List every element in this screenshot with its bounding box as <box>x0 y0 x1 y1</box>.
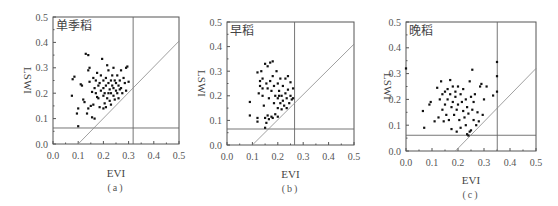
data-point <box>456 109 458 111</box>
y-tick-label: 0.5 <box>389 17 402 28</box>
y-tick-label: 0.1 <box>389 120 402 131</box>
data-point <box>436 87 438 89</box>
data-point <box>422 110 424 112</box>
x-tick-label: 0.0 <box>400 157 413 168</box>
data-point <box>475 124 477 126</box>
data-point <box>454 96 456 98</box>
data-point <box>450 106 452 108</box>
data-point <box>439 98 441 100</box>
data-point <box>466 106 468 108</box>
data-point <box>470 96 472 98</box>
panel-title: 晚稻 <box>409 24 433 38</box>
data-point <box>447 98 449 100</box>
plot-area: 0.00.10.20.30.40.50.00.10.20.30.40.5EVI(… <box>382 17 542 202</box>
scatter-plot-c: 0.00.10.20.30.40.50.00.10.20.30.40.5EVI(… <box>0 0 558 206</box>
y-tick-label: 0.0 <box>389 146 402 157</box>
data-point <box>496 61 498 63</box>
data-point <box>479 85 481 87</box>
data-point <box>483 98 485 100</box>
data-point <box>460 93 462 95</box>
data-point <box>462 88 464 90</box>
data-point <box>466 133 468 135</box>
diagonal-line <box>455 68 536 151</box>
data-point <box>474 93 476 95</box>
data-point <box>434 120 436 122</box>
data-point <box>496 75 498 77</box>
data-point <box>456 131 458 133</box>
y-tick-label: 0.4 <box>389 42 402 53</box>
data-point <box>460 127 462 129</box>
data-point <box>476 111 478 113</box>
data-point <box>449 79 451 81</box>
data-point <box>457 85 459 87</box>
data-point <box>405 67 407 69</box>
data-point <box>441 93 443 95</box>
data-point <box>465 98 467 100</box>
data-point <box>473 101 475 103</box>
x-tick-label: 0.5 <box>530 157 543 168</box>
data-point <box>430 101 432 103</box>
data-point <box>441 109 443 111</box>
data-point <box>428 103 430 105</box>
plot-frame <box>406 22 536 151</box>
data-point <box>449 93 451 95</box>
data-point <box>452 85 454 87</box>
x-tick-label: 0.4 <box>504 157 517 168</box>
data-point <box>454 91 456 93</box>
data-point <box>437 116 439 118</box>
data-point <box>444 103 446 105</box>
x-tick-label: 0.3 <box>478 157 491 168</box>
data-point <box>445 114 447 116</box>
data-point <box>492 94 494 96</box>
y-axis-label: LSWI <box>382 73 394 100</box>
data-point <box>482 114 484 116</box>
data-point <box>469 80 471 82</box>
data-point <box>452 101 454 103</box>
data-point <box>467 112 469 114</box>
data-point <box>471 69 473 71</box>
data-point <box>463 116 465 118</box>
data-point <box>486 85 488 87</box>
data-point <box>423 127 425 129</box>
data-point <box>458 119 460 121</box>
data-points <box>405 61 498 137</box>
data-point <box>453 114 455 116</box>
x-tick-label: 0.2 <box>452 157 465 168</box>
data-point <box>457 103 459 105</box>
data-point <box>465 124 467 126</box>
data-point <box>496 91 498 93</box>
data-point <box>462 110 464 112</box>
x-axis-label: EVI <box>462 174 481 186</box>
data-point <box>471 109 473 111</box>
data-point <box>444 91 446 93</box>
data-point <box>450 128 452 130</box>
x-tick-label: 0.1 <box>426 157 439 168</box>
data-point <box>469 131 471 133</box>
data-point <box>447 88 449 90</box>
panel-caption: (c) <box>462 189 479 201</box>
data-point <box>473 119 475 121</box>
data-point <box>478 120 480 122</box>
data-point <box>440 80 442 82</box>
data-point <box>480 83 482 85</box>
data-point <box>448 119 450 121</box>
data-point <box>443 120 445 122</box>
data-point <box>461 101 463 103</box>
